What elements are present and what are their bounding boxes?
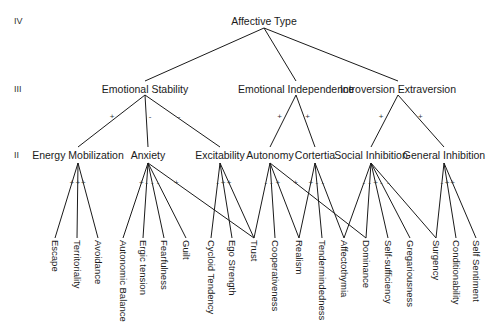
edge-energy-mobilization-territoriality: [77, 163, 78, 238]
diagram-edges: [55, 28, 476, 238]
edge-excitability-trust: [220, 163, 254, 238]
edge-anxiety-guilt: [148, 163, 186, 238]
edge-sign: +: [373, 178, 378, 187]
node-anxiety: Anxiety: [131, 149, 166, 161]
leaf-autonomic-balance: Autonomic Balance: [118, 240, 129, 322]
leaf-affectothymia: Affectothymia: [339, 240, 350, 298]
edge-sign: +: [418, 112, 423, 121]
edge-sign: -: [316, 178, 319, 187]
edge-social-inhibition-self-sufficiency: [371, 163, 388, 238]
edge-emotional-stability-energy-mobilization: [78, 95, 145, 147]
node-excitability: Excitability: [195, 149, 245, 161]
edge-sign: +: [81, 178, 86, 187]
leaf-ergic-tension: Ergic tension: [138, 240, 149, 295]
edge-introversion-extraversion-social-inhibition: [371, 95, 398, 147]
edge-sign: +: [305, 112, 310, 121]
leaf-nodes: EscapeTerritorialityAvoidanceAutonomic B…: [50, 240, 482, 322]
node-social-inhibition: Social Inhibition: [334, 149, 408, 161]
edge-social-inhibition-surgency: [371, 163, 436, 238]
edge-cortertia-realism: [299, 163, 315, 238]
edge-anxiety-trust: [148, 163, 254, 238]
level-label: IV: [14, 16, 23, 26]
edge-sign: -: [157, 178, 160, 187]
leaf-self-sentiment: Self Sentiment: [471, 240, 482, 302]
leaf-cooperativeness: Cooperativeness: [270, 240, 281, 312]
edge-emotional-independence-cortertia: [296, 95, 315, 147]
edge-sign: +: [110, 112, 115, 121]
edge-excitability-cycloid-tendency: [211, 163, 220, 238]
edge-energy-mobilization-avoidance: [78, 163, 98, 238]
leaf-guilt: Guilt: [181, 240, 192, 260]
edge-sign: -: [387, 178, 390, 187]
diagram-nodes: Affective TypeEmotional StabilityEmotion…: [32, 15, 485, 161]
level-label: III: [14, 84, 22, 94]
edge-sign: -: [270, 178, 273, 187]
edge-sign: -: [151, 178, 154, 187]
edge-sign: +: [275, 178, 280, 187]
edge-emotional-stability-anxiety: [145, 95, 148, 147]
leaf-territoriality: Territoriality: [72, 240, 83, 289]
edge-sign: -: [362, 178, 365, 187]
edge-general-inhibition-self-sentiment: [444, 163, 476, 238]
edge-anxiety-fearfulness: [148, 163, 164, 238]
leaf-realism: Realism: [294, 240, 305, 274]
affective-type-hierarchy-diagram: +--++++++++---+-++--+++----+---++ IVIIII…: [0, 0, 501, 325]
edge-excitability-ego-strength: [220, 163, 232, 238]
edge-sign: -: [264, 178, 267, 187]
edge-sign: +: [445, 178, 450, 187]
node-emotional-independence: Emotional Independence: [238, 83, 354, 95]
edge-sign: -: [368, 178, 371, 187]
level-label: II: [14, 150, 19, 160]
edge-emotional-stability-excitability: [145, 95, 220, 147]
leaf-self-sufficiency: Self-sufficiency: [383, 240, 394, 304]
edge-sign: +: [227, 178, 232, 187]
edge-sign: +: [174, 178, 179, 187]
edge-energy-mobilization-escape: [55, 163, 78, 238]
edge-sign: +: [221, 178, 226, 187]
edge-sign: +: [450, 178, 455, 187]
edge-cortertia-tendermindedness: [315, 163, 322, 238]
edge-sign: -: [321, 178, 324, 187]
leaf-fearfulness: Fearfulness: [159, 240, 170, 290]
edge-root-introversion-extraversion: [264, 28, 398, 81]
edge-sign: -: [441, 178, 444, 187]
leaf-ego-strength: Ego Strength: [227, 240, 238, 295]
edge-sign: -: [149, 112, 152, 121]
leaf-escape: Escape: [50, 240, 61, 272]
edge-root-emotional-stability: [145, 28, 264, 81]
edge-sign: +: [139, 178, 144, 187]
leaf-trust: Trust: [249, 240, 260, 262]
node-general-inhibition: General Inhibition: [403, 149, 485, 161]
edge-sign: +: [308, 178, 313, 187]
leaf-tendermindedness: Tendermindedness: [317, 240, 328, 321]
leaf-cycloid-tendency: Cycloid Tendency: [206, 240, 217, 315]
node-autonomy: Autonomy: [246, 149, 294, 161]
edge-sign: -: [216, 178, 219, 187]
leaf-dominance: Dominance: [361, 240, 372, 288]
node-introversion-extraversion: Introversion Extraversion: [340, 83, 456, 95]
leaf-gregariousness: Gregariousness: [405, 240, 416, 307]
edge-introversion-extraversion-general-inhibition: [398, 95, 444, 147]
node-emotional-stability: Emotional Stability: [102, 83, 189, 95]
edge-emotional-independence-autonomy: [270, 95, 296, 147]
edge-sign: +: [379, 112, 384, 121]
edge-root-emotional-independence: [264, 28, 296, 81]
node-energy-mobilization: Energy Mobilization: [32, 149, 124, 161]
node-cortertia: Cortertia: [295, 149, 335, 161]
leaf-conditionability: Conditionability: [451, 240, 462, 305]
edge-sign: -: [145, 178, 148, 187]
edge-sign: -: [178, 112, 181, 121]
edge-autonomy-trust: [254, 163, 270, 238]
edge-sign: +: [75, 178, 80, 187]
edge-sign: +: [277, 112, 282, 121]
leaf-surgency: Surgency: [431, 240, 442, 280]
edge-cortertia-affectothymia: [315, 163, 344, 238]
leaf-avoidance: Avoidance: [93, 240, 104, 284]
edge-general-inhibition-conditionability: [444, 163, 456, 238]
level-labels: IVIIIII: [14, 16, 23, 160]
edge-sign: +: [70, 178, 75, 187]
edge-sign: +: [293, 178, 298, 187]
edge-general-inhibition-surgency: [436, 163, 444, 238]
edge-sign: -: [380, 178, 383, 187]
node-affective-type: Affective Type: [231, 15, 297, 27]
